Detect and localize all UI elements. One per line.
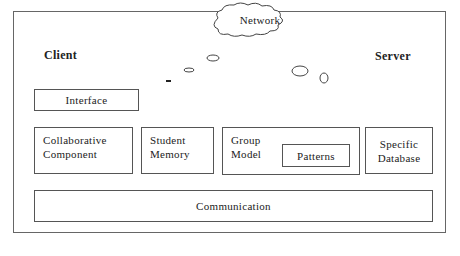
client-label: Client	[44, 48, 77, 62]
interface-box: Interface	[34, 89, 139, 111]
patterns-label: Patterns	[297, 149, 335, 163]
communication-box: Communication	[34, 190, 433, 222]
group-model-box: Group Model Patterns	[222, 127, 360, 175]
collaborative-component-box: Collaborative Component	[34, 127, 133, 174]
communication-label: Communication	[196, 199, 271, 213]
interface-label: Interface	[66, 93, 108, 107]
group-model-label: Group Model	[231, 133, 261, 161]
server-label: Server	[375, 49, 411, 63]
student-memory-box: Student Memory	[141, 127, 214, 174]
specific-database-box: Specific Database	[365, 127, 433, 174]
network-label: Network	[232, 13, 288, 27]
patterns-box: Patterns	[282, 144, 350, 167]
